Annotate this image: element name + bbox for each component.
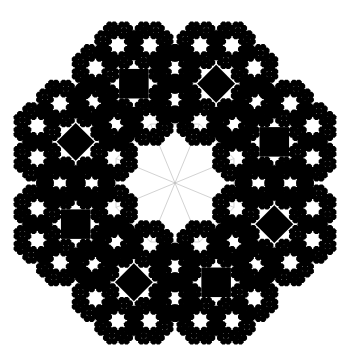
motif-square-4203 bbox=[240, 183, 247, 190]
motif-square-4491 bbox=[272, 106, 279, 113]
fractal-leaf-1439 bbox=[113, 287, 119, 293]
motif-square-2673 bbox=[62, 115, 69, 122]
motif-square-4527 bbox=[301, 94, 308, 101]
octaflake-fractal-canvas bbox=[0, 0, 349, 356]
motif-square-1431 bbox=[107, 288, 114, 295]
fractal-leaf-3689 bbox=[186, 109, 192, 115]
motif-square-3375 bbox=[161, 36, 168, 43]
fractal-leaf-2447 bbox=[109, 169, 115, 175]
motif-square-4185 bbox=[261, 192, 268, 199]
fractal-leaf-575 bbox=[330, 197, 336, 203]
fractal-leaf-2978 bbox=[146, 131, 152, 137]
fractal-leaf-1367 bbox=[135, 309, 141, 315]
fractal-leaf-746 bbox=[197, 330, 203, 336]
fractal-leaf-3095 bbox=[135, 110, 141, 116]
motif-square-1395 bbox=[77, 301, 84, 308]
fractal-leaf-4274 bbox=[232, 167, 238, 173]
fractal-leaf-1385 bbox=[104, 308, 110, 314]
motif-square-3825 bbox=[203, 57, 210, 64]
fractal-leaf-1151 bbox=[272, 255, 278, 261]
fractal-leaf-3302 bbox=[127, 25, 133, 31]
fractal-leaf-1934 bbox=[69, 242, 75, 248]
fractal-leaf-4202 bbox=[255, 190, 261, 196]
motif-square-1791 bbox=[125, 230, 132, 237]
motif-square-4311 bbox=[247, 148, 254, 155]
fractal-leaf-143 bbox=[308, 251, 314, 257]
motif-square-3339 bbox=[131, 48, 138, 55]
fractal-leaf-2969 bbox=[159, 131, 165, 137]
fractal-leaf-2546 bbox=[34, 167, 40, 173]
motif-square-3213 bbox=[86, 49, 93, 56]
motif-square-1899 bbox=[41, 265, 48, 272]
fractal-leaf-2033 bbox=[46, 218, 52, 224]
fractal-leaf-1817 bbox=[100, 272, 106, 278]
motif-square-1719 bbox=[184, 257, 191, 264]
fractal-leaf-1718 bbox=[181, 246, 187, 252]
fractal-leaf-2042 bbox=[34, 218, 40, 224]
fractal-leaf-71 bbox=[330, 228, 336, 234]
motif-square-4581 bbox=[303, 108, 310, 115]
fractal-leaf-4121 bbox=[299, 190, 305, 196]
motif-square-1881 bbox=[62, 274, 69, 281]
motif-square-3789 bbox=[168, 49, 175, 56]
fractal-leaf-737 bbox=[209, 330, 215, 336]
fractal-leaf-2303 bbox=[132, 197, 138, 203]
motif-square-2709 bbox=[50, 85, 57, 92]
fractal-leaf-1871 bbox=[109, 251, 115, 257]
motif-square-2259 bbox=[96, 211, 103, 218]
fractal-leaf-4265 bbox=[245, 167, 251, 173]
motif-square-top-1 bbox=[201, 268, 231, 298]
motif-square-2385 bbox=[94, 192, 101, 199]
motif-square-315 bbox=[218, 211, 225, 218]
motif-square-4545 bbox=[315, 137, 322, 144]
fractal-leaf-1862 bbox=[100, 242, 106, 248]
fractal-leaf-4238 bbox=[267, 160, 273, 166]
motif-square-333 bbox=[226, 190, 233, 197]
fractal-figure: Octaflake Fractal Self-similar octagonal… bbox=[0, 0, 349, 356]
motif-square-1035 bbox=[214, 246, 221, 253]
motif-square-2601 bbox=[40, 137, 47, 144]
motif-square-4419 bbox=[240, 106, 247, 113]
fractal-leaf-1241 bbox=[159, 330, 165, 336]
fractal-leaf-3770 bbox=[174, 77, 180, 83]
motif-square-2295 bbox=[125, 199, 132, 206]
motif-square-1305 bbox=[121, 332, 128, 339]
motif-square-1107 bbox=[236, 269, 243, 276]
fractal-leaf-4130 bbox=[287, 190, 293, 196]
motif-square-3753 bbox=[180, 79, 187, 86]
motif-square-3681 bbox=[180, 111, 187, 118]
fractal-leaf-1169 bbox=[181, 308, 187, 314]
fractal-leaf-98 bbox=[287, 272, 293, 278]
motif-square-1215 bbox=[184, 288, 191, 295]
motif-square-1233 bbox=[152, 332, 159, 339]
fractal-leaf-3050 bbox=[114, 131, 120, 137]
motif-square-513 bbox=[315, 220, 322, 227]
fractal-leaf-962 bbox=[197, 253, 203, 259]
fractal-leaf-4607 bbox=[330, 114, 336, 120]
motif-square-3699 bbox=[159, 102, 166, 109]
fractal-leaf-593 bbox=[263, 308, 269, 314]
fractal-leaf-665 bbox=[241, 330, 247, 336]
motif-square-1953 bbox=[40, 251, 47, 258]
motif-square-1863 bbox=[103, 253, 110, 260]
motif-square-3177 bbox=[98, 79, 105, 86]
fractal-leaf-1313 bbox=[127, 330, 133, 336]
fractal-leaf-2465 bbox=[69, 190, 75, 196]
motif-square-2511 bbox=[71, 171, 78, 178]
fractal-leaf-3374 bbox=[159, 25, 165, 31]
fractal-leaf-1394 bbox=[92, 308, 98, 314]
motif-square-2313 bbox=[117, 169, 124, 176]
fractal-leaf-1079 bbox=[249, 232, 255, 238]
fractal-leaf-4337 bbox=[245, 135, 251, 141]
motif-square-4149 bbox=[280, 162, 287, 169]
motif-square-top-7 bbox=[260, 127, 290, 157]
fractal-leaf-3959 bbox=[249, 34, 255, 40]
motif-square-top-3 bbox=[61, 209, 91, 239]
fractal-leaf-3626 bbox=[197, 131, 203, 137]
fractal-leaf-3113 bbox=[104, 109, 110, 115]
motif-square-3915 bbox=[214, 48, 221, 55]
motif-square-2457 bbox=[62, 192, 69, 199]
motif-square-945 bbox=[203, 255, 210, 262]
motif-square-4257 bbox=[238, 169, 245, 176]
motif-square-2025 bbox=[40, 220, 47, 227]
